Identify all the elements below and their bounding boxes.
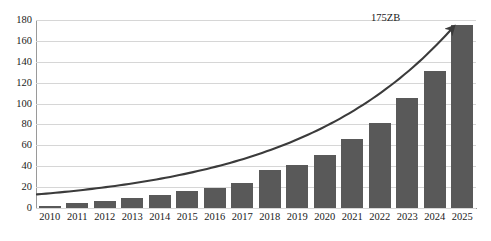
y-axis-tick-label: 120 (16, 78, 32, 89)
y-axis-tick-labels: 020406080100120140160180 (0, 0, 32, 241)
x-axis-tick-label: 2020 (311, 212, 339, 223)
y-axis-tick-label: 0 (27, 203, 32, 214)
y-axis-tick-label: 60 (22, 140, 33, 151)
y-axis-tick-label: 80 (22, 119, 33, 130)
x-axis-tick-label: 2012 (91, 212, 119, 223)
x-axis-tick-label: 2017 (229, 212, 257, 223)
bar (121, 198, 143, 208)
bar (286, 165, 308, 208)
chart-container: 020406080100120140160180 175ZB 201020112… (0, 0, 491, 241)
x-axis-tick-label: 2022 (366, 212, 394, 223)
gridline (36, 208, 476, 209)
x-axis-tick-label: 2011 (64, 212, 92, 223)
bar (94, 201, 116, 208)
bar (451, 25, 473, 208)
x-axis-tick-label: 2015 (174, 212, 202, 223)
annotation-175zb-label: 175ZB (371, 13, 400, 24)
x-axis-tick-label: 2016 (201, 212, 229, 223)
bar (341, 139, 363, 208)
bar (149, 195, 171, 208)
bar (204, 188, 226, 208)
y-axis-tick-label: 160 (16, 36, 32, 47)
x-axis-tick-label: 2021 (339, 212, 367, 223)
x-axis-tick-label: 2024 (421, 212, 449, 223)
bar-series (36, 20, 476, 208)
x-axis-tick-label: 2023 (394, 212, 422, 223)
y-axis-tick-label: 40 (22, 161, 33, 172)
bar (424, 71, 446, 208)
bar (231, 183, 253, 208)
x-axis-tick-label: 2010 (36, 212, 64, 223)
x-axis-tick-label: 2025 (449, 212, 477, 223)
bar (66, 203, 88, 208)
x-axis-tick-labels: 2010201120122013201420152016201720182019… (36, 212, 476, 236)
y-axis-tick-label: 180 (16, 15, 32, 26)
x-axis-tick-label: 2013 (119, 212, 147, 223)
y-axis-tick-label: 100 (16, 99, 32, 110)
x-axis-tick-label: 2018 (256, 212, 284, 223)
bar (39, 206, 61, 208)
bar (369, 123, 391, 208)
y-axis-tick-label: 20 (22, 182, 33, 193)
bar (176, 191, 198, 208)
bar (259, 170, 281, 208)
y-axis-tick-label: 140 (16, 57, 32, 68)
x-axis-tick-label: 2019 (284, 212, 312, 223)
bar (314, 155, 336, 208)
bar (396, 98, 418, 208)
x-axis-tick-label: 2014 (146, 212, 174, 223)
